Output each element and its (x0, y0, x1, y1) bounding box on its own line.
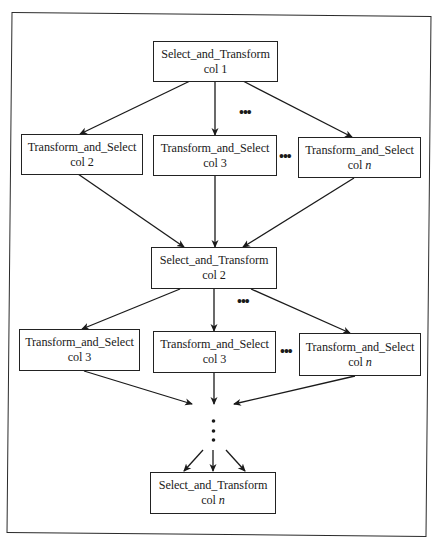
node-title: Select_and_Transform (160, 253, 269, 268)
node-subtitle: col 1 (204, 62, 228, 77)
horizontal-ellipsis-icon: ••• (237, 297, 249, 307)
node-subtitle: col n (348, 158, 372, 173)
horizontal-ellipsis-icon: ••• (280, 347, 292, 357)
flowchart-canvas: Select_and_Transform col 1 ••• Transform… (0, 0, 436, 548)
node-title: Transform_and_Select (28, 140, 137, 155)
node-subtitle: col 3 (203, 156, 227, 171)
node-subtitle: col n (201, 493, 225, 508)
node-subtitle: col 3 (68, 350, 92, 365)
node-select-and-transform-col2: Select_and_Transform col 2 (151, 247, 277, 289)
node-title: Transform_and_Select (25, 335, 134, 350)
node-title: Select_and_Transform (161, 47, 270, 62)
node-transform-and-select-col2: Transform_and_Select col 2 (21, 134, 143, 175)
node-title: Transform_and_Select (305, 143, 414, 158)
node-subtitle: col 2 (202, 268, 226, 283)
node-subtitle: col 3 (203, 352, 227, 367)
node-select-and-transform-coln: Select_and_Transform col n (150, 472, 276, 514)
node-subtitle: col n (348, 355, 372, 370)
horizontal-ellipsis-icon: ••• (279, 152, 291, 162)
node-transform-and-select-col3: Transform_and_Select col 3 (153, 135, 277, 176)
node-title: Transform_and_Select (160, 337, 269, 352)
node-title: Transform_and_Select (161, 141, 270, 156)
node-select-and-transform-col1: Select_and_Transform col 1 (153, 41, 278, 82)
node-subtitle: col 2 (70, 155, 94, 170)
node-transform-and-select-col3-left: Transform_and_Select col 3 (19, 329, 140, 371)
node-transform-and-select-coln: Transform_and_Select col n (298, 137, 421, 178)
node-title: Transform_and_Select (306, 340, 415, 355)
horizontal-ellipsis-icon: ••• (239, 108, 251, 118)
node-transform-and-select-coln-row4: Transform_and_Select col n (299, 333, 421, 376)
node-transform-and-select-col3-mid: Transform_and_Select col 3 (153, 331, 276, 373)
node-title: Select_and_Transform (159, 478, 268, 493)
